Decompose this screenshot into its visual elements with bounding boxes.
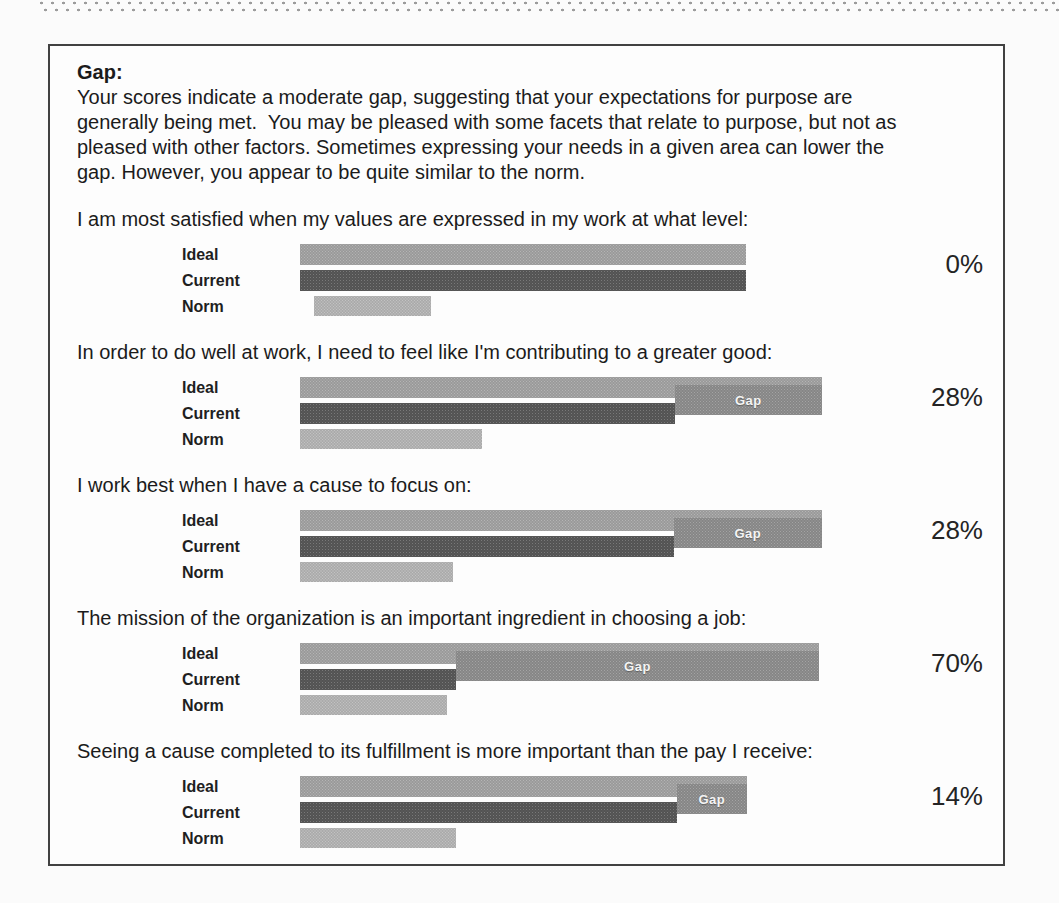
gap-overlay: Gap: [677, 784, 747, 814]
bar-track: Gap: [300, 776, 822, 850]
current-row-label: Current: [182, 802, 282, 823]
section-description: Your scores indicate a moderate gap, sug…: [77, 85, 909, 185]
current-bar: [300, 802, 677, 823]
question-text: In order to do well at work, I need to f…: [77, 340, 983, 365]
norm-row-label: Norm: [182, 296, 282, 317]
current-bar: [300, 270, 746, 291]
question-text: I am most satisfied when my values are e…: [77, 207, 983, 232]
current-row-label: Current: [182, 270, 282, 291]
bar-track: Gap: [300, 377, 822, 451]
norm-bar: [314, 296, 431, 316]
current-row-label: Current: [182, 403, 282, 424]
gap-bar-chart: Ideal Current Norm Gap 70%: [182, 643, 983, 717]
question-text: I work best when I have a cause to focus…: [77, 473, 983, 498]
question-block: Seeing a cause completed to its fulfillm…: [77, 739, 983, 850]
norm-row-label: Norm: [182, 429, 282, 450]
question-text: The mission of the organization is an im…: [77, 606, 983, 631]
gap-bar-chart: Ideal Current Norm Gap 28%: [182, 377, 983, 451]
ideal-row-label: Ideal: [182, 510, 282, 531]
gap-overlay: Gap: [456, 651, 819, 681]
gap-bar-chart: Ideal Current Norm Gap 28%: [182, 510, 983, 584]
current-bar: [300, 669, 456, 690]
question-text: Seeing a cause completed to its fulfillm…: [77, 739, 983, 764]
norm-row-label: Norm: [182, 828, 282, 849]
ideal-row-label: Ideal: [182, 244, 282, 265]
gap-overlay: Gap: [674, 518, 822, 548]
gap-report-panel: Gap: Your scores indicate a moderate gap…: [48, 44, 1005, 866]
gap-overlay-label: Gap: [735, 393, 762, 408]
gap-bar-chart: Ideal Current Norm Gap 14%: [182, 776, 983, 850]
ideal-row-label: Ideal: [182, 643, 282, 664]
gap-percentage: 70%: [853, 649, 983, 677]
norm-bar: [300, 695, 447, 715]
current-bar: [300, 403, 675, 424]
current-row-label: Current: [182, 669, 282, 690]
section-heading: Gap:: [77, 60, 983, 85]
current-bar: [300, 536, 674, 557]
norm-bar: [300, 562, 453, 582]
question-block: In order to do well at work, I need to f…: [77, 340, 983, 451]
norm-bar: [300, 429, 482, 449]
question-block: I am most satisfied when my values are e…: [77, 207, 983, 318]
ideal-bar: [300, 244, 746, 265]
gap-percentage: 28%: [853, 383, 983, 411]
norm-row-label: Norm: [182, 562, 282, 583]
norm-row-label: Norm: [182, 695, 282, 716]
ideal-row-label: Ideal: [182, 377, 282, 398]
gap-bar-chart: Ideal Current Norm 0%: [182, 244, 983, 318]
ideal-row-label: Ideal: [182, 776, 282, 797]
gap-overlay-label: Gap: [624, 659, 651, 674]
norm-bar: [300, 828, 456, 848]
question-block: I work best when I have a cause to focus…: [77, 473, 983, 584]
page-top-dotted-separator: [36, 0, 1059, 14]
gap-overlay-label: Gap: [698, 792, 725, 807]
gap-overlay: Gap: [675, 385, 822, 415]
bar-track: [300, 244, 822, 318]
bar-track: Gap: [300, 643, 822, 717]
gap-percentage: 14%: [853, 782, 983, 810]
question-block: The mission of the organization is an im…: [77, 606, 983, 717]
questions-container: I am most satisfied when my values are e…: [77, 207, 983, 850]
current-row-label: Current: [182, 536, 282, 557]
gap-percentage: 28%: [853, 516, 983, 544]
gap-percentage: 0%: [853, 250, 983, 278]
gap-overlay-label: Gap: [734, 526, 761, 541]
bar-track: Gap: [300, 510, 822, 584]
